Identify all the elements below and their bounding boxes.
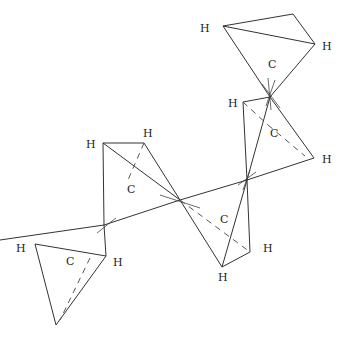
- tetrahedron-middle-right: [180, 180, 250, 267]
- label-h9: H: [16, 242, 26, 255]
- label-c5: C: [66, 255, 74, 268]
- tetrahedron-middle-left: [97, 143, 200, 233]
- label-c3: C: [127, 183, 135, 196]
- label-h10: H: [113, 256, 123, 269]
- label-c4: C: [220, 213, 228, 226]
- label-h2: H: [322, 40, 332, 53]
- label-h6: H: [143, 127, 153, 140]
- label-h3: H: [228, 97, 238, 110]
- label-h8: H: [218, 271, 228, 284]
- tetrahedron-upper-right: [238, 97, 314, 190]
- label-h1: H: [200, 22, 210, 35]
- label-c1: C: [268, 58, 276, 71]
- label-h5: H: [86, 138, 96, 151]
- molecule-diagram: H H C H C H H H C C H H H C H: [0, 0, 350, 342]
- tetrahedron-bottom-left: [35, 225, 106, 325]
- atom-labels: H H C H C H H H C C H H H C H: [16, 22, 332, 284]
- label-h4: H: [322, 153, 332, 166]
- label-h7: H: [263, 242, 273, 255]
- label-c2: C: [270, 127, 278, 140]
- backbone: [0, 180, 247, 240]
